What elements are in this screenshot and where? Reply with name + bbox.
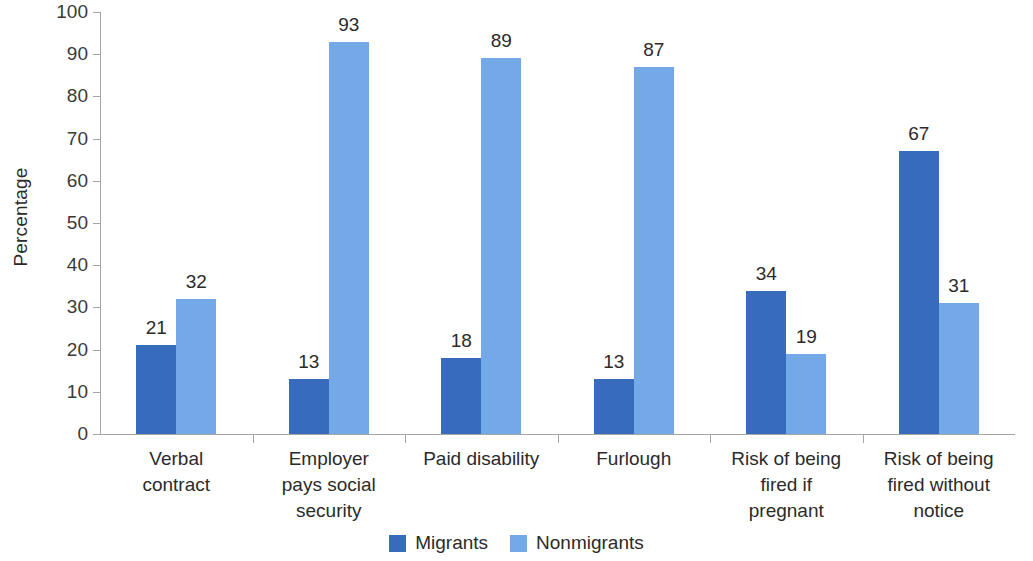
category-label-line: security (248, 498, 411, 524)
y-axis-tick-label: 20 (40, 339, 88, 361)
bar-migrants (746, 291, 786, 434)
legend-item-migrants[interactable]: Migrants (389, 532, 488, 554)
category-label-line: Furlough (553, 446, 716, 472)
bar-chart: Percentage 0102030405060708090100 213213… (0, 0, 1033, 561)
bar-value-label: 32 (186, 271, 207, 293)
y-axis-tick-label: 80 (40, 85, 88, 107)
plot-area (100, 12, 1010, 434)
bar-migrants (899, 151, 939, 434)
y-axis-tick-label: 90 (40, 43, 88, 65)
category-label-line: pregnant (705, 498, 868, 524)
category-label-line: Verbal (95, 446, 258, 472)
legend-label: Migrants (415, 532, 488, 554)
x-axis-category-label: Verbalcontract (95, 446, 258, 498)
y-axis-tick (93, 434, 100, 435)
category-label-line: Risk of being (858, 446, 1021, 472)
x-axis-tick (253, 435, 254, 443)
y-axis-tick (93, 350, 100, 351)
y-axis-tick (93, 181, 100, 182)
x-axis-tick (863, 435, 864, 443)
y-axis-tick (93, 265, 100, 266)
bar-value-label: 67 (908, 123, 929, 145)
category-label-line: fired without (858, 472, 1021, 498)
x-axis-tick (710, 435, 711, 443)
y-axis-tick-label: 70 (40, 128, 88, 150)
bar-value-label: 31 (948, 275, 969, 297)
bar-value-label: 87 (643, 39, 664, 61)
category-label-line: notice (858, 498, 1021, 524)
chart-legend: MigrantsNonmigrants (0, 532, 1033, 554)
y-axis-title: Percentage (0, 0, 42, 434)
bar-nonmigrants (329, 42, 369, 434)
bar-migrants (441, 358, 481, 434)
bar-migrants (136, 345, 176, 434)
x-axis-category-label: Risk of beingfired withoutnotice (858, 446, 1021, 524)
legend-label: Nonmigrants (536, 532, 644, 554)
y-axis-tick-label: 10 (40, 381, 88, 403)
bar-nonmigrants (939, 303, 979, 434)
x-axis-category-label: Employerpays socialsecurity (248, 446, 411, 524)
x-axis-category-label: Risk of beingfired ifpregnant (705, 446, 868, 524)
legend-swatch-icon (389, 535, 406, 552)
bar-migrants (594, 379, 634, 434)
bar-nonmigrants (176, 299, 216, 434)
bar-value-label: 93 (338, 14, 359, 36)
category-label-line: Employer (248, 446, 411, 472)
x-axis-tick (558, 435, 559, 443)
y-axis-tick-label: 50 (40, 212, 88, 234)
category-label-line: contract (95, 472, 258, 498)
y-axis-tick (93, 96, 100, 97)
category-label-line: fired if (705, 472, 868, 498)
category-label-line: Risk of being (705, 446, 868, 472)
y-axis-tick (93, 12, 100, 13)
y-axis-tick (93, 307, 100, 308)
bar-nonmigrants (786, 354, 826, 434)
category-label-line: Paid disability (400, 446, 563, 472)
y-axis-title-text: Percentage (10, 167, 32, 266)
bar-migrants (289, 379, 329, 434)
y-axis-tick-label: 30 (40, 296, 88, 318)
y-axis-tick-label: 40 (40, 254, 88, 276)
bar-value-label: 19 (796, 326, 817, 348)
y-axis-tick (93, 139, 100, 140)
bar-value-label: 21 (146, 317, 167, 339)
legend-item-nonmigrants[interactable]: Nonmigrants (510, 532, 644, 554)
bar-value-label: 13 (298, 351, 319, 373)
y-axis-tick (93, 54, 100, 55)
legend-swatch-icon (510, 535, 527, 552)
bar-value-label: 34 (756, 263, 777, 285)
y-axis-tick-label: 60 (40, 170, 88, 192)
bar-nonmigrants (634, 67, 674, 434)
bar-nonmigrants (481, 58, 521, 434)
bar-value-label: 13 (603, 351, 624, 373)
x-axis-tick (405, 435, 406, 443)
y-axis-tick-label: 0 (40, 423, 88, 445)
x-axis-category-label: Furlough (553, 446, 716, 472)
y-axis-tick (93, 223, 100, 224)
x-axis-category-label: Paid disability (400, 446, 563, 472)
bar-value-label: 18 (451, 330, 472, 352)
y-axis-tick (93, 392, 100, 393)
bar-value-label: 89 (491, 30, 512, 52)
category-label-line: pays social (248, 472, 411, 498)
y-axis-tick-label: 100 (40, 1, 88, 23)
